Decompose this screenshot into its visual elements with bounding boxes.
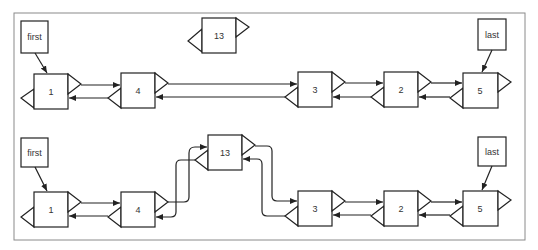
next-pointer-triangle [155,73,168,93]
next-pointer-triangle [236,18,249,37]
last-pointer-label: last [485,30,500,40]
node-2: 2 [371,191,431,226]
node-label: 2 [398,85,403,95]
last-arrow [482,166,492,190]
last-arrow [482,50,492,72]
next-pointer-triangle [418,191,431,211]
next-pointer-triangle [68,74,81,94]
next-pointer-triangle [418,72,431,92]
node-5: 5 [450,191,511,226]
node-label: 4 [135,205,140,215]
prev-pointer-triangle [195,150,208,170]
prev-link-3-13 [243,159,285,216]
next-pointer-triangle [498,73,511,92]
prev-pointer-triangle [285,206,298,226]
next-pointer-triangle [498,191,511,210]
linked-list-diagram: 13 first last 1 4 3 [0,0,538,250]
first-pointer-label: first [27,148,42,158]
prev-pointer-triangle [108,207,121,227]
node-5: 5 [450,73,511,108]
new-node-13: 13 [188,18,249,53]
node-label: 3 [312,204,317,214]
prev-pointer-triangle [371,87,384,107]
node-label: 4 [135,86,140,96]
node-13: 13 [195,135,255,170]
node-label: 5 [477,204,482,214]
node-label: 13 [214,31,224,41]
last-pointer-label: last [485,147,500,157]
node-label: 13 [220,148,230,158]
prev-pointer-triangle [285,87,298,107]
next-link-13-3 [255,146,297,201]
prev-pointer-triangle [450,88,463,108]
diagram-frame [14,13,525,240]
node-label: 3 [312,85,317,95]
prev-pointer-triangle [108,88,121,108]
prev-pointer-triangle [21,89,34,108]
next-pointer-triangle [155,192,168,212]
node-label: 1 [48,205,53,215]
first-pointer-label: first [27,32,42,42]
node-3: 3 [285,191,345,226]
node-3: 3 [285,72,345,107]
node-4: 4 [108,73,168,108]
next-pointer-triangle [332,191,345,211]
prev-pointer-triangle [188,29,202,52]
node-2: 2 [371,72,431,107]
node-4: 4 [108,192,168,227]
node-label: 2 [398,204,403,214]
prev-pointer-triangle [21,207,34,227]
next-pointer-triangle [68,192,81,212]
list-before: first last 1 4 3 [21,19,511,109]
next-pointer-triangle [242,135,255,155]
first-arrow [35,53,47,73]
prev-pointer-triangle [450,206,463,226]
node-1: 1 [21,192,81,227]
first-arrow [35,167,47,191]
list-after: first last 1 4 13 [21,135,511,227]
next-pointer-triangle [332,72,345,92]
node-label: 1 [48,87,53,97]
node-1: 1 [21,74,81,109]
prev-pointer-triangle [371,206,384,226]
node-label: 5 [477,86,482,96]
